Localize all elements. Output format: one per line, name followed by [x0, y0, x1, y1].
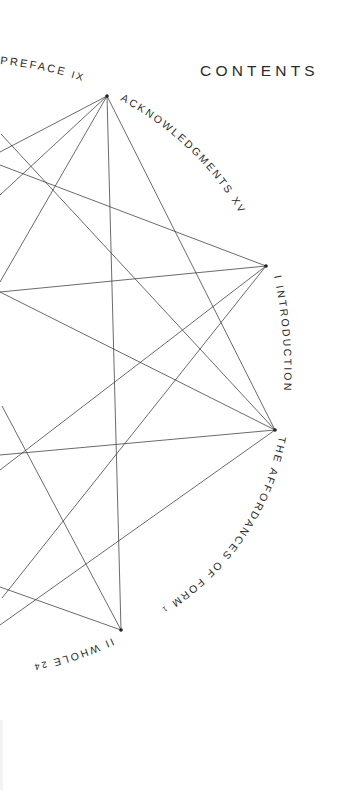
toc-entry-whole: II WHOLE 24	[32, 636, 117, 672]
toc-entry-introduction: I INTRODUCTION	[272, 274, 294, 393]
diagram-nodes	[105, 94, 277, 632]
contents-network-diagram: PREFACE IX ACKNOWLEDGMENTS XV I INTRODUC…	[0, 0, 351, 804]
page-edge-shadow	[0, 720, 3, 790]
node-preface-dot	[105, 94, 109, 98]
node-whole-dot	[119, 628, 123, 632]
contents-page: CONTENTS	[0, 0, 351, 804]
toc-entry-affordances-of-form: THE AFFORDANCES OF FORM 1	[160, 436, 289, 615]
toc-entry-acknowledgments: ACKNOWLEDGMENTS XV	[119, 91, 248, 216]
node-affordances-dot	[273, 428, 277, 432]
toc-entry-preface: PREFACE IX	[0, 54, 87, 83]
node-introduction-dot	[264, 264, 268, 268]
